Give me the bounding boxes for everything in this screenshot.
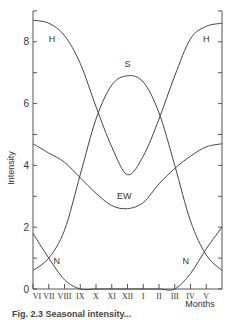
x-tick-label: III	[171, 292, 179, 301]
x-tick-label: VII	[43, 292, 54, 301]
y-tick-label: 8	[23, 36, 29, 47]
series-label-n: N	[183, 256, 190, 266]
series-labels: HHSEWNN	[49, 34, 210, 266]
y-tick-label: 4	[23, 160, 29, 171]
x-axis-label: Months	[185, 299, 215, 309]
x-tick-label: XII	[122, 292, 133, 301]
x-tick-label: II	[156, 292, 162, 301]
x-tick-label: VIII	[58, 292, 72, 301]
series-label-h: H	[49, 34, 56, 44]
figure-caption: Fig. 2.3 Seasonal intensity...	[12, 309, 131, 319]
y-tick-label: 0	[23, 284, 29, 295]
series-line-s	[33, 76, 222, 271]
x-tick-label: VI	[33, 292, 42, 301]
series-label-h: H	[203, 34, 210, 44]
x-tick-label: XI	[108, 292, 117, 301]
y-tick-label: 6	[23, 98, 29, 109]
x-tick-label: IX	[76, 292, 85, 301]
y-axis-label: Intensity	[6, 151, 16, 185]
series-label-ew: EW	[117, 191, 132, 201]
x-tick-label: I	[142, 292, 145, 301]
x-tick-label: X	[93, 292, 99, 301]
series-label-s: S	[124, 59, 130, 69]
axes	[33, 11, 222, 289]
series-label-n: N	[53, 256, 60, 266]
seasonal-intensity-chart: 02468VIVIIVIIIIXXXIXIIIIIIIIIVV HHSEWNN …	[0, 0, 237, 320]
y-tick-label: 2	[23, 222, 29, 233]
series-line-h	[33, 20, 222, 175]
